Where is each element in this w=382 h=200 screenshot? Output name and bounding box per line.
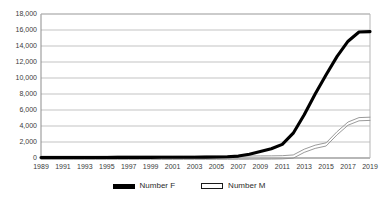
y-tick-label: 18,000: [0, 10, 37, 17]
y-tick-label: 4,000: [0, 122, 37, 129]
y-tick-label: 2,000: [0, 138, 37, 145]
legend-label-number-m: Number M: [228, 182, 265, 190]
x-tick-label: 2017: [336, 163, 360, 170]
y-tick-label: 16,000: [0, 26, 37, 33]
y-tick-label: 10,000: [0, 74, 37, 81]
x-tick-label: 1997: [117, 163, 141, 170]
legend-item-number-f[interactable]: Number F: [113, 182, 176, 190]
x-tick-label: 1993: [73, 163, 97, 170]
x-tick-label: 2009: [248, 163, 272, 170]
x-tick-label: 1989: [29, 163, 53, 170]
x-tick-label: 2005: [204, 163, 228, 170]
y-tick-label: 14,000: [0, 42, 37, 49]
x-tick-label: 1995: [95, 163, 119, 170]
x-tick-label: 1999: [139, 163, 163, 170]
chart-legend: Number F Number M: [0, 182, 378, 190]
x-tick-label: 2013: [292, 163, 316, 170]
legend-swatch-number-m-icon: [201, 183, 223, 189]
x-tick-label: 2011: [270, 163, 294, 170]
x-tick-label: 2007: [226, 163, 250, 170]
legend-swatch-number-f-icon: [113, 184, 135, 189]
x-tick-label: 2019: [358, 163, 382, 170]
y-tick-label: 12,000: [0, 58, 37, 65]
x-tick-label: 2003: [183, 163, 207, 170]
legend-item-number-m[interactable]: Number M: [201, 182, 265, 190]
x-tick-label: 2015: [314, 163, 338, 170]
y-tick-label: 8,000: [0, 90, 37, 97]
y-tick-label: 6,000: [0, 106, 37, 113]
y-tick-label: 0: [0, 154, 37, 161]
legend-label-number-f: Number F: [140, 182, 176, 190]
x-tick-label: 1991: [51, 163, 75, 170]
x-tick-label: 2001: [161, 163, 185, 170]
